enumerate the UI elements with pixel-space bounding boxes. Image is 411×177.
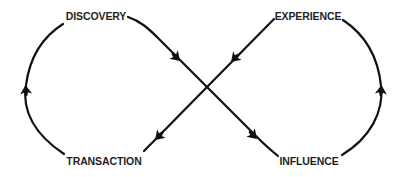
- node-label-influence: INFLUENCE: [279, 155, 338, 167]
- arrow-down-right-icon: [245, 127, 261, 143]
- arrow-up-left-icon: [20, 85, 33, 97]
- edge-influence-to-experience: [342, 20, 381, 155]
- arrow-up-right-icon: [375, 85, 388, 97]
- edge-transaction-to-discovery: [25, 24, 64, 154]
- node-label-transaction: TRANSACTION: [66, 155, 141, 167]
- node-label-discovery: DISCOVERY: [66, 10, 127, 22]
- infinity-cycle-diagram: DISCOVERY EXPERIENCE INFLUENCE TRANSACTI…: [0, 0, 411, 177]
- node-label-experience: EXPERIENCE: [275, 10, 342, 22]
- infinity-loop-paths: [0, 0, 411, 177]
